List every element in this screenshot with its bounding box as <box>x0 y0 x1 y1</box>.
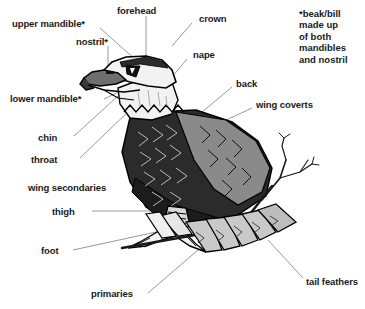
label-crown: crown <box>199 14 226 24</box>
eagle-anatomy-diagram: upper mandible* forehead crown nostril* … <box>0 0 365 309</box>
label-nostril: nostril* <box>76 37 108 47</box>
label-thigh: thigh <box>52 207 75 217</box>
leader-tail-feathers <box>268 240 303 278</box>
eagle-figure <box>80 56 319 252</box>
label-nape: nape <box>193 50 215 60</box>
leader-crown <box>172 23 192 46</box>
label-foot: foot <box>41 246 59 256</box>
beak-note: *beak/bill made up of both mandibles and… <box>299 8 348 65</box>
nostril-shape <box>106 71 114 74</box>
label-back: back <box>236 79 257 89</box>
label-forehead: forehead <box>117 6 156 16</box>
label-wing-secondaries: wing secondaries <box>28 183 106 193</box>
label-primaries: primaries <box>91 289 133 299</box>
label-lower-mandible: lower mandible* <box>10 94 81 104</box>
label-chin: chin <box>38 133 57 143</box>
label-throat: throat <box>31 155 57 165</box>
label-upper-mandible: upper mandible* <box>12 19 85 29</box>
label-tail-feathers: tail feathers <box>306 277 358 287</box>
label-wing-coverts: wing coverts <box>256 100 313 110</box>
